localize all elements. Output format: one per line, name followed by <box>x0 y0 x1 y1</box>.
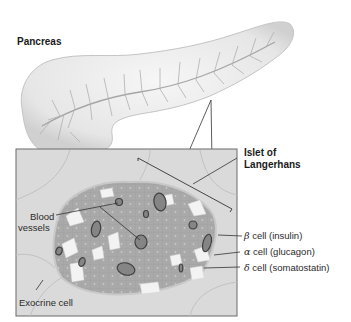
alpha-cell-label: α cell (glucagon) <box>244 246 315 257</box>
islet-label-line1: Islet of <box>244 147 276 158</box>
blood-vessels-label-line2: vessels <box>18 222 50 233</box>
pancreas-islet-diagram: Pancreas Islet of Langerhans Blood vesse… <box>0 0 351 322</box>
exocrine-cell-label: Exocrine cell <box>19 297 73 308</box>
beta-cell-label: β cell (insulin) <box>244 230 302 241</box>
delta-cell-label: δ cell (somatostatin) <box>244 262 329 273</box>
pancreas-organ <box>21 22 293 150</box>
islet-label-line2: Langerhans <box>244 159 301 170</box>
pancreas-label: Pancreas <box>17 36 61 47</box>
blood-vessels-label-line1: Blood <box>30 211 54 222</box>
